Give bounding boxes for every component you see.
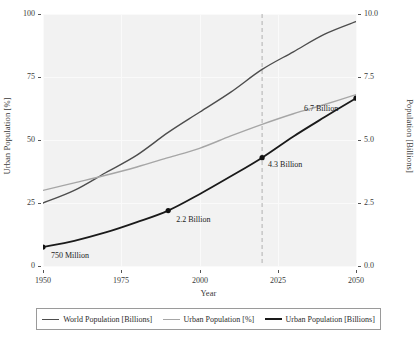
legend-item[interactable]: Urban Population [%] (163, 315, 255, 324)
x-axis-tick-mark (121, 270, 122, 273)
data-point-marker (260, 155, 265, 160)
data-point-annotation: 6.7 Billion (304, 104, 338, 113)
y-axis-right-tick-mark (358, 140, 361, 141)
chart-lines (43, 14, 356, 266)
y-axis-left-tick-label: 0 (11, 261, 35, 270)
legend-line-swatch (163, 319, 180, 320)
y-axis-left-tick-mark (38, 140, 41, 141)
y-axis-right-title: Population [Billions] (403, 0, 417, 271)
legend-item-label: World Population [Billions] (63, 315, 152, 324)
legend-item-label: Urban Population [%] (184, 315, 255, 324)
x-axis-tick-mark (200, 270, 201, 273)
series-line (43, 98, 356, 247)
y-axis-left-tick-mark (38, 77, 41, 78)
x-axis-tick-label: 2000 (180, 276, 220, 285)
legend-item-label: Urban Population [Billions] (286, 315, 375, 324)
x-axis-tick-label: 1950 (23, 276, 63, 285)
y-axis-right-tick-label: 7.5 (364, 72, 390, 81)
grid-line-vertical (356, 14, 357, 266)
x-axis-tick-label: 1975 (101, 276, 141, 285)
x-axis-tick-label: 2050 (336, 276, 376, 285)
y-axis-left-tick-label: 75 (11, 72, 35, 81)
legend-item[interactable]: World Population [Billions] (42, 315, 152, 324)
y-axis-right-tick-mark (358, 203, 361, 204)
data-point-annotation: 2.2 Billion (176, 215, 210, 224)
legend-line-swatch (42, 319, 59, 320)
y-axis-right-tick-label: 5.0 (364, 135, 390, 144)
x-axis-title: Year (0, 288, 417, 298)
y-axis-left-tick-mark (38, 203, 41, 204)
legend-line-swatch (265, 318, 282, 320)
x-axis-tick-label: 2025 (258, 276, 298, 285)
y-axis-right-tick-label: 10.0 (364, 9, 390, 18)
data-point-annotation: 4.3 Billion (268, 160, 302, 169)
x-axis-tick-mark (43, 270, 44, 273)
y-axis-left-tick-label: 50 (11, 135, 35, 144)
x-axis-tick-mark (278, 270, 279, 273)
y-axis-right-tick-mark (358, 266, 361, 267)
y-axis-right-tick-label: 0.0 (364, 261, 390, 270)
chart-legend: World Population [Billions]Urban Populat… (36, 308, 381, 330)
data-point-annotation: 750 Million (51, 251, 89, 260)
y-axis-right-title-text: Population [Billions] (405, 99, 415, 173)
y-axis-left-tick-mark (38, 14, 41, 15)
data-point-marker (43, 245, 46, 250)
grid-line-horizontal (43, 266, 356, 267)
y-axis-left-tick-label: 25 (11, 198, 35, 207)
y-axis-left-title: Urban Population [%] (0, 0, 14, 271)
y-axis-right-tick-mark (358, 77, 361, 78)
x-axis-tick-mark (356, 270, 357, 273)
y-axis-right-tick-mark (358, 14, 361, 15)
y-axis-left-tick-mark (38, 266, 41, 267)
legend-item[interactable]: Urban Population [Billions] (265, 315, 375, 324)
x-axis-title-text: Year (200, 288, 216, 298)
y-axis-left-title-text: Urban Population [%] (2, 97, 12, 174)
y-axis-right-tick-label: 2.5 (364, 198, 390, 207)
y-axis-left-tick-label: 100 (11, 9, 35, 18)
population-chart-figure: 100755025010.07.55.02.50.019501975200020… (0, 0, 417, 345)
data-point-marker (166, 208, 171, 213)
